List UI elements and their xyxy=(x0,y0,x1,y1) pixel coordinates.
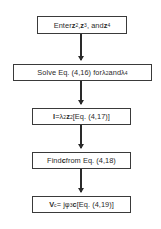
step-text: , and xyxy=(87,21,104,30)
arrow-down-icon xyxy=(80,34,82,60)
step-enter-z-values: Enter z2, z3, and z4 xyxy=(37,16,127,34)
step-text: [Eq. (4,17)] xyxy=(73,112,110,121)
step-text: Find xyxy=(47,156,62,165)
step-text: Enter xyxy=(54,21,72,30)
step-text: from Eq. (4,18) xyxy=(66,156,116,165)
step-text: = j xyxy=(57,200,65,209)
var-phi: φ xyxy=(65,200,70,209)
step-solve-lambda: Solve Eq. (4,16) for λ2 and λ4 xyxy=(13,64,152,81)
step-text: [Eq. (4,19)] xyxy=(77,200,114,209)
arrow-down-icon xyxy=(80,125,82,148)
step-text: and xyxy=(109,68,121,77)
step-compute-vc: Vc = jφ3c [Eq. (4,19)] xyxy=(32,196,131,213)
step-text: Solve Eq. (4,16) for xyxy=(37,68,102,77)
arrow-down-icon xyxy=(80,81,82,104)
step-compute-current: I = λ2z2 [Eq. (4,17)] xyxy=(32,108,131,125)
arrow-down-icon xyxy=(80,169,82,192)
step-find-c: Find c from Eq. (4,18) xyxy=(32,152,131,169)
